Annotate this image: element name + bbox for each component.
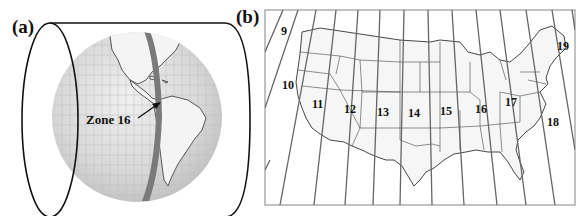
figure-canvas: Zone 16 (0, 0, 588, 216)
zone-label: 10 (282, 78, 294, 92)
zone-label: 13 (377, 105, 389, 119)
zone-label: 14 (408, 106, 420, 120)
zone-label: 11 (312, 97, 323, 111)
us-map: 9 10 11 12 13 14 15 16 17 18 19 (265, 10, 575, 205)
zone-label: 12 (344, 102, 356, 116)
zone-label: 19 (557, 39, 569, 53)
zone-label: 16 (475, 102, 487, 116)
zone-label: 9 (281, 24, 287, 38)
zone-16-label: Zone 16 (86, 112, 131, 127)
zone-label: 15 (440, 104, 452, 118)
zone-label: 18 (547, 115, 559, 129)
zone-label: 17 (505, 95, 517, 109)
